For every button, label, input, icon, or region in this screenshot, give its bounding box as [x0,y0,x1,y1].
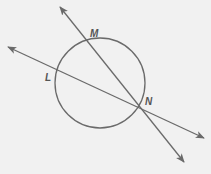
point-label-m: M [90,28,99,39]
line-mn [60,7,184,162]
geometry-diagram: M L N [0,0,211,174]
point-label-n: N [145,96,153,107]
circle [55,38,145,128]
point-label-l: L [45,72,51,83]
line-ln [8,47,204,138]
